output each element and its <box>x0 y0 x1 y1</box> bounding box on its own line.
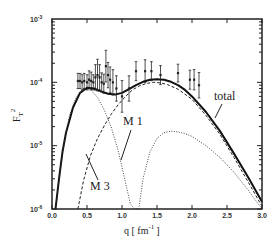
x-tick-label: 1.0 <box>117 212 127 219</box>
x-tick-label: 0.0 <box>47 212 57 219</box>
data-point <box>150 62 153 81</box>
data-point <box>189 70 192 89</box>
data-point <box>77 73 80 88</box>
chart: FT2 0.00.51.01.52.02.53.0 10-310-410-510… <box>0 0 273 250</box>
data-point <box>144 60 147 83</box>
data-point <box>79 73 82 88</box>
data-point <box>88 71 91 89</box>
annotation-total: total <box>214 89 236 118</box>
data-point <box>112 70 115 95</box>
data-point <box>98 65 101 90</box>
y-tick-label: 10-5 <box>30 140 42 149</box>
data-point <box>135 62 138 81</box>
data-points <box>77 50 201 112</box>
data-point <box>81 75 84 90</box>
x-tick-label: 3.0 <box>257 212 267 219</box>
data-point <box>159 66 162 85</box>
data-point <box>96 59 99 91</box>
x-tick-label: 0.5 <box>82 212 92 219</box>
x-tick-label: 1.5 <box>152 212 162 219</box>
data-point <box>107 62 110 87</box>
data-point <box>115 76 118 101</box>
y-tick-label: 10-4 <box>30 77 42 86</box>
y-tick-label: 10-3 <box>30 14 42 23</box>
data-point <box>198 73 201 98</box>
svg-text:FT2: FT2 <box>9 108 25 122</box>
data-point <box>83 73 86 88</box>
data-point <box>109 67 112 92</box>
data-point <box>128 76 131 101</box>
x-tick-labels: 0.00.51.01.52.02.53.0 <box>47 212 267 219</box>
data-point <box>121 81 124 113</box>
svg-text:total: total <box>214 89 236 103</box>
data-point <box>94 65 97 90</box>
axis-ticks <box>52 19 262 209</box>
plot-frame <box>52 19 262 209</box>
data-point <box>100 73 103 92</box>
y-tick-labels: 10-310-410-510-6 <box>30 14 42 213</box>
y-axis-title: FT2 <box>9 108 25 122</box>
x-tick-label: 2.0 <box>187 212 197 219</box>
svg-text:M 1: M 1 <box>123 114 143 128</box>
y-tick-label: 10-6 <box>30 204 42 213</box>
data-point <box>193 70 196 90</box>
x-axis-title: q [ fm-1] <box>124 223 160 236</box>
annotation-m1: M 1 <box>121 114 143 160</box>
data-point <box>105 50 108 82</box>
svg-text:M 3: M 3 <box>90 179 110 193</box>
data-point <box>103 74 106 93</box>
x-tick-label: 2.5 <box>222 212 232 219</box>
data-point <box>177 64 180 82</box>
